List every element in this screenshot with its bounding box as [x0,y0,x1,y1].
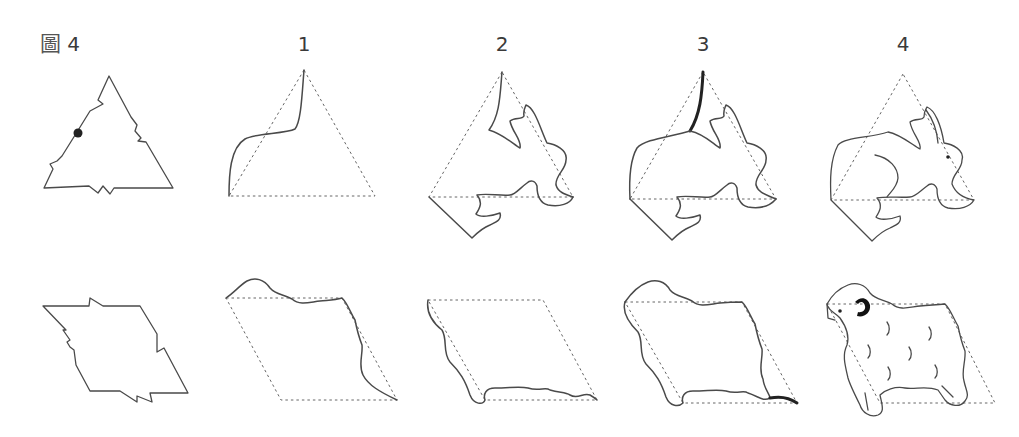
rabbit-ear-inner [926,110,938,143]
rabbit-eye [946,155,950,159]
triangle-step-2 [429,72,573,238]
wool-curl-3 [868,345,870,358]
parallelogram-base-shape [43,298,188,402]
sheep-leg-line-front [865,393,868,410]
highlighted-edge [690,72,703,131]
parallelogram-step-1 [226,279,397,400]
parallelogram-step-3 [624,281,797,406]
triangle-step-4-rabbit [831,74,974,241]
wool-curl-1 [887,322,889,335]
sheep-leg-line [942,386,953,397]
highlighted-edge [770,397,797,403]
triangle-step-3 [630,72,776,240]
triangle-step-1 [229,70,375,196]
sheep-eye [838,309,842,313]
pivot-dot [74,129,83,138]
tessellation-diagram [0,0,1019,437]
sheep-horn [855,298,870,316]
wool-curl-2 [929,327,931,340]
wool-curl-4 [909,347,911,360]
parallelogram-step-2 [428,300,597,403]
wool-curl-6 [935,365,937,378]
wool-curl-5 [888,367,890,380]
triangle-base-shape [44,76,173,194]
rabbit-leg-line [875,155,898,197]
parallelogram-step-4-sheep [827,284,995,416]
